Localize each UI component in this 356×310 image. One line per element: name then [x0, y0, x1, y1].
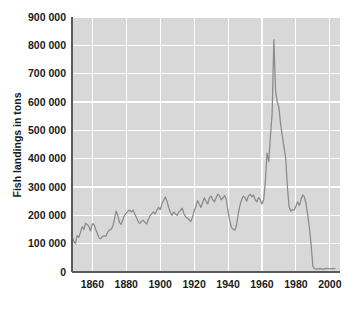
y-tick-label: 100 000: [28, 237, 66, 249]
y-tick-label: 700 000: [28, 67, 66, 79]
x-tick-label: 1880: [115, 278, 139, 290]
x-tick-label: 1920: [182, 278, 206, 290]
y-tick-label: 300 000: [28, 181, 66, 193]
x-tick-label: 1900: [149, 278, 173, 290]
y-tick-label: 800 000: [28, 39, 66, 51]
y-tick-label: 400 000: [28, 152, 66, 164]
y-tick-label: 0: [60, 266, 66, 278]
y-tick-label: 600 000: [28, 96, 66, 108]
x-tick-label: 1960: [250, 278, 274, 290]
fish-landings-chart: 0100 000200 000300 000400 000500 000600 …: [0, 0, 356, 310]
chart-canvas: 0100 000200 000300 000400 000500 000600 …: [0, 0, 356, 310]
y-tick-label: 900 000: [28, 11, 66, 23]
y-tick-label: 500 000: [28, 124, 66, 136]
plot-area-background: [72, 17, 340, 272]
x-tick-label: 1940: [216, 278, 240, 290]
y-axis-title: Fish landings in tons: [11, 92, 23, 197]
x-tick-label: 1980: [284, 278, 308, 290]
y-tick-label: 200 000: [28, 209, 66, 221]
x-tick-label: 2000: [318, 278, 342, 290]
x-tick-label: 1860: [81, 278, 105, 290]
